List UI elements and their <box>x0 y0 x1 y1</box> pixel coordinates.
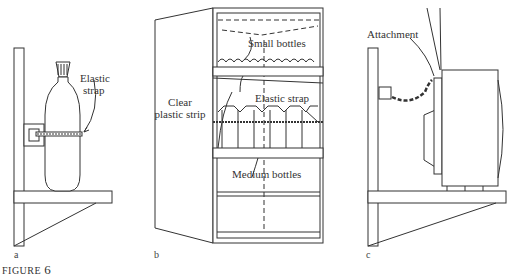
label-clear-plastic-strip: Clear plastic strip <box>150 96 210 120</box>
figure-number: 6 <box>44 262 51 277</box>
label-elastic-strap-b: Elastic strap <box>255 92 309 104</box>
panel-letter-c: c <box>366 249 370 260</box>
figure-label: FIGURE <box>2 265 41 276</box>
label-line: strap <box>80 84 110 96</box>
label-elastic-strap-a: Elastic strap <box>80 72 110 96</box>
panel-letter-a: a <box>14 249 18 260</box>
label-attachment: Attachment <box>367 28 418 40</box>
panel-c-drawing <box>368 8 506 246</box>
label-line: Clear <box>150 96 210 108</box>
panel-letter-b: b <box>154 249 159 260</box>
label-medium-bottles: Medium bottles <box>232 168 301 180</box>
label-line: plastic strip <box>150 108 210 120</box>
label-small-bottles: Small bottles <box>248 37 306 49</box>
figure-caption: FIGURE 6 <box>2 262 51 278</box>
label-line: Elastic <box>80 72 110 84</box>
